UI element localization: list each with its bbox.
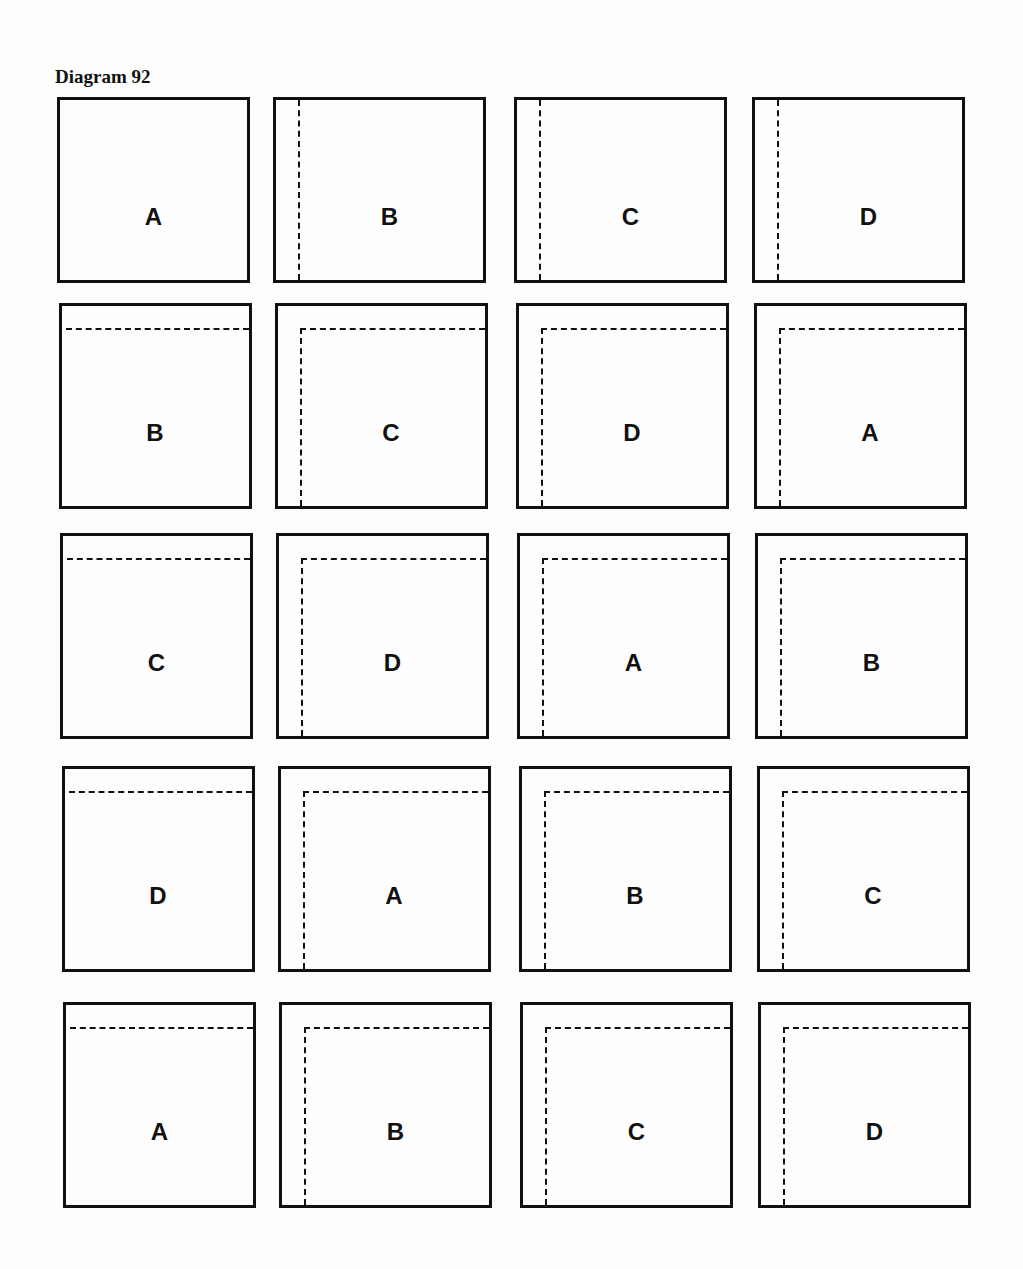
square-3-1: C <box>60 533 253 739</box>
dashed-fold-line-horizontal <box>544 791 729 793</box>
square-label: C <box>63 649 250 677</box>
square-label: D <box>761 1118 968 1146</box>
square-5-2: B <box>279 1002 492 1208</box>
dashed-fold-line-horizontal <box>780 558 965 560</box>
dashed-fold-line-vertical <box>545 1027 547 1205</box>
dashed-fold-line-horizontal <box>779 328 964 330</box>
square-5-1: A <box>63 1002 256 1208</box>
square-label: A <box>281 882 488 910</box>
dashed-fold-line-horizontal <box>300 328 485 330</box>
square-1-4: D <box>752 97 965 283</box>
square-label: C <box>517 203 724 231</box>
dashed-fold-line-vertical <box>298 100 300 280</box>
dashed-fold-line-vertical <box>304 1027 306 1205</box>
square-label: B <box>522 882 729 910</box>
dashed-fold-line-horizontal <box>70 1027 253 1029</box>
square-5-4: D <box>758 1002 971 1208</box>
square-4-2: A <box>278 766 491 972</box>
square-label: A <box>60 203 247 231</box>
dashed-fold-line-vertical <box>539 100 541 280</box>
dashed-fold-line-vertical <box>300 328 302 506</box>
square-1-1: A <box>57 97 250 283</box>
square-4-1: D <box>62 766 255 972</box>
dashed-fold-line-horizontal <box>66 328 249 330</box>
square-2-3: D <box>516 303 729 509</box>
dashed-fold-line-vertical <box>542 558 544 736</box>
dashed-fold-line-horizontal <box>545 1027 730 1029</box>
dashed-fold-line-vertical <box>782 791 784 969</box>
dashed-fold-line-vertical <box>301 558 303 736</box>
square-2-1: B <box>59 303 252 509</box>
square-2-2: C <box>275 303 488 509</box>
square-3-3: A <box>517 533 730 739</box>
square-label: D <box>755 203 962 231</box>
square-5-3: C <box>520 1002 733 1208</box>
square-label: B <box>758 649 965 677</box>
square-1-3: C <box>514 97 727 283</box>
square-label: C <box>278 419 485 447</box>
square-label: D <box>65 882 252 910</box>
square-label: B <box>282 1118 489 1146</box>
square-label: A <box>757 419 964 447</box>
diagram-title: Diagram 92 <box>55 66 151 88</box>
dashed-fold-line-vertical <box>544 791 546 969</box>
dashed-fold-line-horizontal <box>67 558 250 560</box>
dashed-fold-line-horizontal <box>303 791 488 793</box>
square-label: C <box>760 882 967 910</box>
square-4-4: C <box>757 766 970 972</box>
square-label: B <box>276 203 483 231</box>
square-2-4: A <box>754 303 967 509</box>
square-label: A <box>66 1118 253 1146</box>
dashed-fold-line-horizontal <box>301 558 486 560</box>
dashed-fold-line-horizontal <box>542 558 727 560</box>
dashed-fold-line-vertical <box>783 1027 785 1205</box>
square-label: D <box>279 649 486 677</box>
dashed-fold-line-horizontal <box>541 328 726 330</box>
dashed-fold-line-horizontal <box>782 791 967 793</box>
square-label: C <box>523 1118 730 1146</box>
square-3-2: D <box>276 533 489 739</box>
dashed-fold-line-vertical <box>541 328 543 506</box>
square-4-3: B <box>519 766 732 972</box>
dashed-fold-line-horizontal <box>783 1027 968 1029</box>
square-label: B <box>62 419 249 447</box>
square-1-2: B <box>273 97 486 283</box>
dashed-fold-line-horizontal <box>69 791 252 793</box>
dashed-fold-line-horizontal <box>304 1027 489 1029</box>
dashed-fold-line-vertical <box>779 328 781 506</box>
square-label: A <box>520 649 727 677</box>
dashed-fold-line-vertical <box>777 100 779 280</box>
dashed-fold-line-vertical <box>303 791 305 969</box>
dashed-fold-line-vertical <box>780 558 782 736</box>
square-3-4: B <box>755 533 968 739</box>
square-label: D <box>519 419 726 447</box>
